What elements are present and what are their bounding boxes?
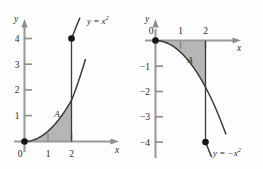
left-x-axis-arrow xyxy=(111,138,120,144)
figure-container: y x 0 4 3 2 1 1 2 A y = x2 xyxy=(0,0,263,169)
right-y-axis-label: y xyxy=(144,14,150,24)
left-y-axis-label: y xyxy=(13,14,19,24)
left-xtick-label-2: 2 xyxy=(69,149,74,159)
left-equation-exponent: 2 xyxy=(106,14,109,21)
left-y-axis-arrow xyxy=(21,19,27,28)
right-equation-label: y = −x2 xyxy=(212,146,241,158)
right-xtick-label-2: 2 xyxy=(203,26,208,36)
right-curve-lower-segment xyxy=(206,87,227,134)
left-region-label-A: A xyxy=(53,109,60,119)
left-curve-tail xyxy=(72,18,81,39)
left-ytick-label-1: 1 xyxy=(15,111,20,121)
left-origin-label: 0 xyxy=(18,149,23,159)
right-x-axis-label: x xyxy=(236,43,242,53)
left-equation-label: y = x2 xyxy=(86,14,109,26)
left-ytick-label-3: 3 xyxy=(15,60,20,70)
right-equation-exponent: 2 xyxy=(238,146,241,153)
left-equation-prefix: y = x xyxy=(86,16,106,26)
right-ytick-label-minus4: −4 xyxy=(140,138,150,148)
right-equation-prefix: y = −x xyxy=(212,148,238,158)
right-region-label-A: A xyxy=(186,55,193,65)
right-ytick-label-minus3: −3 xyxy=(140,112,150,122)
right-chart-panel: y x 0 1 2 −1 −2 −3 −4 A y = −x2 xyxy=(131,0,263,169)
left-point-2-4 xyxy=(68,35,75,42)
left-xtick-label-1: 1 xyxy=(46,149,51,159)
left-ytick-label-4: 4 xyxy=(15,34,20,44)
right-ytick-label-minus2: −2 xyxy=(140,87,150,97)
right-point-origin xyxy=(152,37,159,44)
left-ytick-label-2: 2 xyxy=(15,85,20,95)
right-point-2-minus4 xyxy=(202,139,209,146)
left-point-origin xyxy=(21,138,28,145)
left-chart-panel: y x 0 4 3 2 1 1 2 A y = x2 xyxy=(0,0,131,169)
left-x-axis-label: x xyxy=(114,145,120,155)
right-ytick-label-minus1: −1 xyxy=(140,62,150,72)
right-origin-label: 0 xyxy=(149,26,154,36)
right-xtick-label-1: 1 xyxy=(178,26,183,36)
